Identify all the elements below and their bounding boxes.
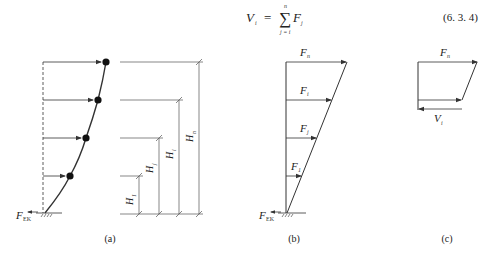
panel-a-labels: F EK H 1 H j H i H n (a) — [15, 131, 197, 245]
mass-node-i — [94, 96, 101, 103]
caption-c: (c) — [441, 233, 452, 245]
force-label-i: F — [299, 84, 307, 96]
sum-upper-limit: n — [284, 3, 287, 9]
svg-text:H: H — [124, 197, 135, 206]
fixed-support-hatch-icon — [282, 214, 293, 217]
top-force-label: F — [439, 46, 447, 58]
svg-text:j: j — [306, 129, 309, 135]
base-shear-sub-a: EK — [23, 216, 32, 222]
svg-text:i: i — [441, 120, 443, 126]
mass-node-1 — [66, 172, 73, 179]
deflected-shape-curve — [45, 62, 106, 213]
svg-text:i: i — [307, 91, 309, 97]
sum-lower-limit: j = i — [279, 29, 291, 35]
force-label-n: F — [299, 46, 307, 58]
mass-node-n — [102, 58, 109, 65]
height-label-j: H j — [144, 163, 157, 174]
equation-equals: = — [264, 10, 271, 25]
svg-text:H: H — [144, 165, 155, 174]
svg-text:H: H — [184, 134, 195, 143]
seismic-force-diagram: V i = ∑ n j = i F j (6. 3. 4) — [0, 0, 503, 254]
base-shear-label-b: F — [258, 209, 266, 221]
svg-text:i: i — [171, 149, 177, 151]
force-label-1: F — [290, 160, 298, 172]
fixed-support-hatch-icon — [41, 214, 52, 217]
panel-a — [28, 58, 203, 217]
svg-text:n: n — [191, 131, 197, 134]
svg-text:1: 1 — [131, 194, 137, 197]
svg-text:n: n — [447, 53, 450, 59]
force-distribution-line-c — [462, 62, 477, 100]
equation-lhs-sub: i — [255, 20, 257, 26]
sum-symbol: ∑ — [279, 9, 291, 28]
svg-text:1: 1 — [298, 167, 301, 173]
height-label-i: H i — [164, 149, 177, 160]
svg-text:n: n — [307, 53, 310, 59]
base-shear-sub-b: EK — [266, 216, 275, 222]
height-label-1: H 1 — [124, 194, 137, 206]
panel-c — [418, 62, 477, 110]
panel-b-labels: F n F i F j F 1 F EK (b) — [258, 46, 310, 245]
svg-text:j: j — [151, 163, 157, 166]
caption-a: (a) — [104, 233, 115, 245]
force-label-j: F — [299, 122, 307, 134]
height-label-n: H n — [184, 131, 197, 143]
base-shear-label-a: F — [15, 209, 23, 221]
equation-number: (6. 3. 4) — [443, 11, 478, 24]
caption-b: (b) — [288, 233, 300, 245]
force-distribution-line — [287, 62, 347, 213]
svg-text:H: H — [164, 151, 175, 160]
panel-c-labels: F n V i (c) — [434, 46, 453, 245]
equation-term-sub: j — [300, 20, 303, 26]
panel-b — [271, 62, 347, 217]
equation: V i = ∑ n j = i F j (6. 3. 4) — [246, 3, 478, 35]
mass-node-j — [82, 134, 89, 141]
